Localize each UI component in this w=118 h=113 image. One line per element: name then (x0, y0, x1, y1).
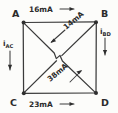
circuit-diagram: A B C D 16mA 23mA iAC iBD (0, 0, 118, 113)
node-label-C: C (10, 97, 17, 108)
node-dot-D (94, 91, 98, 95)
node-label-D: D (101, 97, 109, 108)
arrow-CD-right (60, 102, 74, 106)
edge-AB (24, 22, 97, 23)
branch-label-AB: 16mA (29, 5, 53, 14)
arrow-BD-down (103, 38, 107, 55)
paper-sheet: A B C D 16mA 23mA iAC iBD (0, 0, 118, 113)
arrow-AB-right (60, 7, 74, 11)
branch-label-BD: iBD (100, 27, 112, 37)
branch-label-AC: iAC (3, 39, 14, 49)
node-dot-C (22, 91, 26, 95)
arrow-BC-downleft (50, 30, 65, 43)
node-dot-A (22, 21, 26, 25)
node-label-B: B (101, 8, 108, 19)
branch-label-CD: 23mA (29, 100, 53, 109)
branch-label-AD: 38mA (46, 61, 70, 83)
node-label-A: A (12, 8, 20, 19)
node-dot-B (94, 20, 98, 24)
arrow-AC-down (8, 51, 12, 70)
arrow-AD-upright (70, 70, 82, 82)
branch-label-BC: 14mA (62, 9, 86, 31)
